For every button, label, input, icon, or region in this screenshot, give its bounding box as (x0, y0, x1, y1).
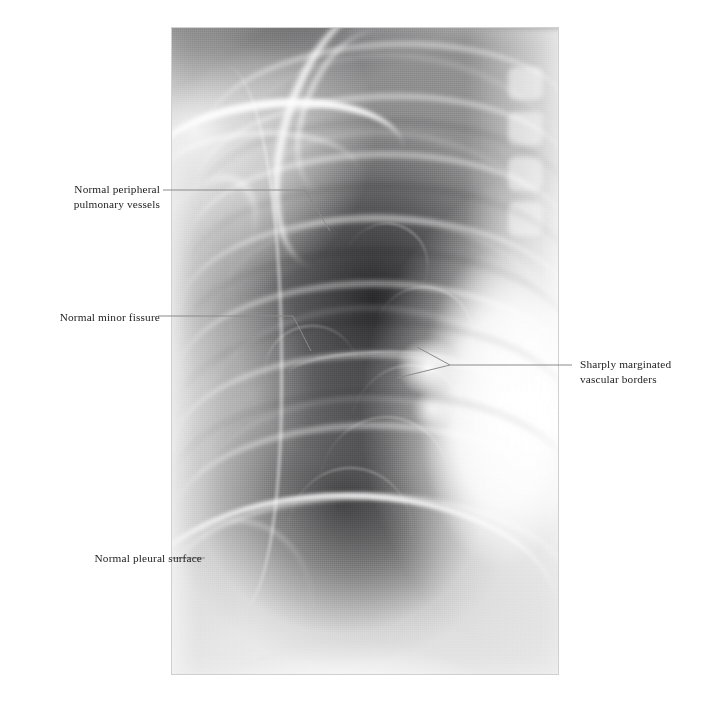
annotation-label-vascular-borders: Sharply marginated vascular borders (580, 357, 708, 386)
chest-radiograph-image (172, 28, 558, 674)
annotation-label-pleural-surface: Normal pleural surface (42, 551, 202, 566)
film-vignette (172, 28, 558, 674)
annotation-label-peripheral-vessels: Normal peripheral pulmonary vessels (26, 182, 160, 211)
figure-container: Normal peripheral pulmonary vessels Norm… (0, 0, 715, 714)
annotation-label-minor-fissure: Normal minor fissure (24, 310, 160, 325)
